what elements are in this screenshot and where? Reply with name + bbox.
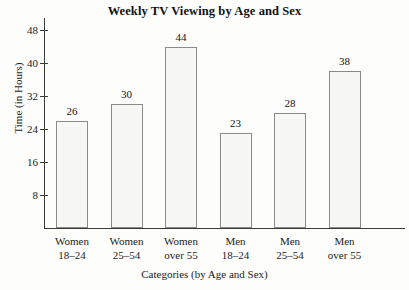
bar-value-label: 30	[121, 88, 132, 100]
x-category-label-line: 25–54	[110, 248, 144, 262]
y-tick-label: 40	[27, 57, 38, 69]
bar	[274, 113, 306, 229]
x-category-label: Men18–24	[222, 234, 250, 262]
x-category-label-line: Women	[164, 234, 198, 248]
x-category-label-line: Men	[276, 234, 304, 248]
x-category-label-line: Men	[328, 234, 361, 248]
bar-value-label: 28	[285, 97, 296, 109]
x-category-label-line: Women	[55, 234, 89, 248]
y-tick-label: 8	[33, 189, 39, 201]
bar	[111, 104, 143, 228]
y-tick-label: 32	[27, 90, 38, 102]
y-tick-mark	[40, 129, 48, 130]
y-axis-line	[44, 18, 45, 228]
y-tick-label: 48	[27, 24, 38, 36]
y-tick-label: 16	[27, 156, 38, 168]
y-tick-mark	[40, 195, 48, 196]
y-axis-label: Time (in Hours)	[12, 28, 24, 168]
bar	[165, 47, 197, 229]
plot-area: 81624324048 263044232838	[44, 18, 405, 228]
chart-title: Weekly TV Viewing by Age and Sex	[0, 4, 409, 19]
x-category-label: Men25–54	[276, 234, 304, 262]
x-axis-line	[44, 228, 405, 229]
y-tick-label: 24	[27, 123, 38, 135]
x-category-label-line: 25–54	[276, 248, 304, 262]
x-axis-label: Categories (by Age and Sex)	[0, 268, 409, 280]
x-category-label-line: 18–24	[55, 248, 89, 262]
chart-screenshot: Weekly TV Viewing by Age and Sex Time (i…	[0, 0, 409, 290]
x-category-label-line: over 55	[164, 248, 198, 262]
y-tick-mark	[40, 30, 48, 31]
y-tick-mark	[40, 96, 48, 97]
bar-value-label: 23	[230, 117, 241, 129]
bar	[329, 71, 361, 228]
y-tick-mark	[40, 162, 48, 163]
bar-value-label: 26	[67, 105, 78, 117]
x-category-label: Women18–24	[55, 234, 89, 262]
x-category-label: Menover 55	[328, 234, 361, 262]
y-tick-mark	[40, 63, 48, 64]
x-category-label: Womenover 55	[164, 234, 198, 262]
x-category-label-line: Women	[110, 234, 144, 248]
bar-value-label: 38	[339, 55, 350, 67]
bar-value-label: 44	[176, 31, 187, 43]
x-category-label-line: 18–24	[222, 248, 250, 262]
x-category-label-line: over 55	[328, 248, 361, 262]
x-category-label: Women25–54	[110, 234, 144, 262]
x-category-label-line: Men	[222, 234, 250, 248]
bar	[220, 133, 252, 228]
bar	[56, 121, 88, 228]
